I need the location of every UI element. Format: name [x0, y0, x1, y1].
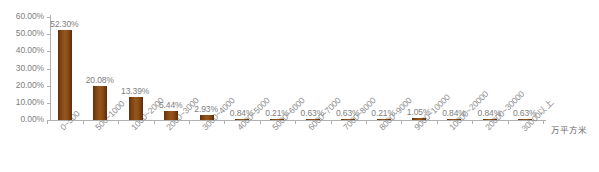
bar[interactable]	[341, 119, 355, 120]
x-axis-tick-mark	[331, 121, 332, 124]
x-axis-tick-mark	[508, 121, 509, 124]
bar[interactable]	[270, 119, 284, 120]
bar[interactable]	[58, 30, 72, 120]
x-axis-tick-mark	[437, 121, 438, 124]
y-axis-tick-label: 0.00%	[20, 114, 44, 124]
bar-value-label: 13.39%	[121, 86, 149, 96]
bar-value-label: 5.44%	[159, 100, 183, 110]
x-axis-tick-mark	[366, 121, 367, 124]
x-axis-tick-mark	[118, 121, 119, 124]
bar[interactable]	[518, 119, 532, 120]
x-axis-tick-mark	[260, 121, 261, 124]
x-axis-tick-mark	[47, 121, 48, 124]
bar-value-label: 0.63%	[513, 108, 537, 118]
bar[interactable]	[412, 118, 426, 120]
bar-value-label: 0.84%	[442, 108, 466, 118]
x-axis-tick-mark	[224, 121, 225, 124]
bar[interactable]	[93, 86, 107, 120]
bar-value-label: 0.21%	[371, 108, 395, 118]
x-axis-tick-mark	[472, 121, 473, 124]
x-axis-tick-mark	[401, 121, 402, 124]
bar-chart: 60.00%50.00%40.00%30.00%20.00%10.00%0.00…	[0, 0, 599, 172]
y-axis-tick-label: 30.00%	[16, 63, 44, 73]
bar-value-label: 0.21%	[265, 108, 289, 118]
y-axis-tick-label: 50.00%	[16, 28, 44, 38]
bar[interactable]	[235, 119, 249, 120]
x-axis-tick-mark	[189, 121, 190, 124]
bar-value-label: 52.30%	[50, 19, 78, 29]
y-axis-tick-label: 40.00%	[16, 45, 44, 55]
x-axis-tick-mark	[83, 121, 84, 124]
y-axis-tick-label: 10.00%	[16, 97, 44, 107]
y-axis-tick-label: 20.00%	[16, 80, 44, 90]
x-axis-unit-label: 万平方米	[551, 123, 587, 135]
bar[interactable]	[306, 119, 320, 120]
bar-value-label: 1.05%	[407, 107, 431, 117]
bar[interactable]	[377, 119, 391, 120]
bar-value-label: 0.63%	[336, 108, 360, 118]
bar[interactable]	[447, 119, 461, 120]
x-axis-tick-mark	[154, 121, 155, 124]
y-axis-tick-label: 60.00%	[16, 11, 44, 21]
bar[interactable]	[129, 97, 143, 120]
bar-value-label: 0.63%	[301, 108, 325, 118]
bar[interactable]	[483, 119, 497, 120]
bar-value-label: 20.08%	[86, 75, 114, 85]
bar-value-label: 0.84%	[478, 108, 502, 118]
bar-value-label: 0.84%	[230, 108, 254, 118]
bar-value-label: 2.93%	[194, 104, 218, 114]
x-axis-tick-mark	[543, 121, 544, 124]
x-axis-tick-mark	[295, 121, 296, 124]
bar[interactable]	[200, 115, 214, 120]
bar[interactable]	[164, 111, 178, 120]
